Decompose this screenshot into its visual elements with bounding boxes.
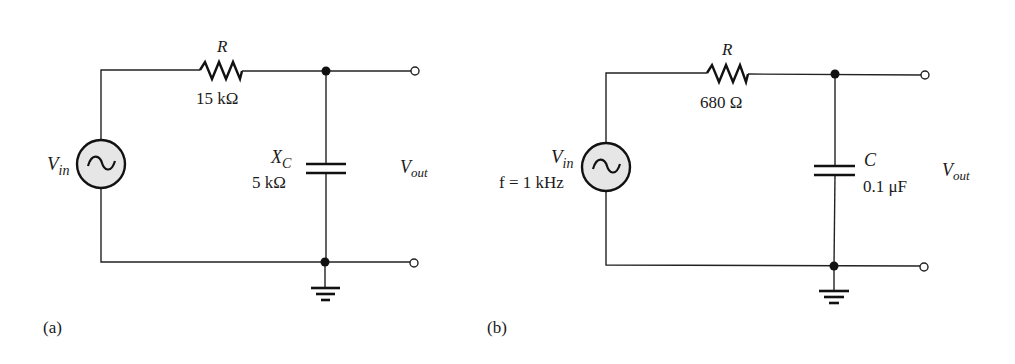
ac-source-icon xyxy=(582,143,630,191)
resistor-value-label: 680 Ω xyxy=(700,93,742,112)
output-terminal-top xyxy=(411,67,419,75)
ground-icon xyxy=(311,288,340,300)
vout-label: Vout xyxy=(400,157,428,180)
junction-dot-top xyxy=(831,70,840,79)
panel-label-b: (b) xyxy=(487,318,507,337)
junction-dot-bottom xyxy=(830,262,839,271)
frequency-label: f = 1 kHz xyxy=(499,173,564,192)
resistor-name-label: R xyxy=(721,40,733,59)
wire-left-bottom xyxy=(606,191,922,266)
output-terminal-bottom xyxy=(920,263,928,271)
junction-dot-top xyxy=(322,67,331,76)
wire-left-top xyxy=(606,73,707,143)
capacitor-icon xyxy=(814,166,855,175)
resistor-name-label: R xyxy=(216,37,228,56)
vin-label: Vin xyxy=(551,146,574,171)
panel-label-a: (a) xyxy=(43,318,62,337)
wire-cap-bottom xyxy=(834,175,835,266)
ac-source-icon xyxy=(77,140,125,188)
output-terminal-bottom xyxy=(410,259,418,267)
ground-icon xyxy=(819,291,849,303)
capacitor-icon xyxy=(306,164,346,173)
capacitor-value-label: 0.1 μF xyxy=(863,177,907,196)
rc-circuits-figure: R 15 kΩ Vin XC 5 kΩ Vout (a) xyxy=(0,0,1015,364)
resistor-icon xyxy=(200,62,242,79)
capacitor-name-label: XC xyxy=(270,147,292,171)
capacitor-name-label: C xyxy=(864,150,877,170)
circuit-a: R 15 kΩ Vin XC 5 kΩ Vout (a) xyxy=(43,37,428,337)
junction-dot-bottom xyxy=(321,258,330,267)
resistor-value-label: 15 kΩ xyxy=(196,89,238,108)
wire-left-bottom xyxy=(101,188,413,262)
resistor-icon xyxy=(707,65,748,82)
vout-label: Vout xyxy=(942,160,970,183)
vin-label: Vin xyxy=(47,153,70,178)
output-terminal-top xyxy=(921,71,929,79)
capacitor-value-label: 5 kΩ xyxy=(252,173,286,192)
circuit-b: R 680 Ω Vin f = 1 kHz C 0.1 μF Vout (b) xyxy=(487,40,970,337)
wire-left-top xyxy=(101,70,200,140)
